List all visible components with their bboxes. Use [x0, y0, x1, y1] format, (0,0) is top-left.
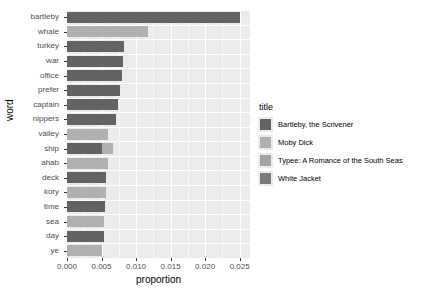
y-axis-tick	[64, 119, 67, 120]
x-axis-title: proportion	[67, 274, 250, 285]
bar-segment	[67, 129, 108, 140]
bar-row	[67, 99, 250, 110]
bar-row	[67, 231, 250, 242]
bar-row	[67, 41, 250, 52]
y-axis-tick	[64, 251, 67, 252]
bar-segment	[67, 187, 106, 198]
legend-key	[258, 117, 273, 132]
bar-segment	[67, 172, 106, 183]
legend-swatch	[260, 155, 271, 166]
x-axis-tick	[136, 258, 137, 261]
y-axis-tick	[64, 222, 67, 223]
legend-swatch	[260, 137, 271, 148]
legend-swatch	[260, 173, 271, 184]
bar-segment	[67, 26, 148, 37]
bar-segment	[67, 41, 124, 52]
y-axis-tick-label: whale	[0, 27, 59, 37]
bar-row	[67, 172, 250, 183]
legend-title: title	[259, 102, 418, 112]
bar-row	[67, 245, 250, 256]
y-axis-tick	[64, 61, 67, 62]
y-axis-tick	[64, 192, 67, 193]
x-axis-tick	[240, 258, 241, 261]
bar-segment	[67, 12, 240, 23]
legend-item: Typee: A Romance of the South Seas	[258, 152, 418, 169]
plot-panel	[67, 10, 250, 258]
bar-row	[67, 216, 250, 227]
x-axis-tick	[67, 258, 68, 261]
bar-segment	[67, 56, 123, 67]
y-axis-tick-label: war	[0, 56, 59, 66]
y-axis-tick-label: sea	[0, 217, 59, 227]
legend-swatch	[260, 119, 271, 130]
y-axis-tick-label: time	[0, 202, 59, 212]
bar-segment	[67, 245, 102, 256]
bar-row	[67, 114, 250, 125]
legend-item: Moby Dick	[258, 134, 418, 151]
y-axis-tick-label: bartleby	[0, 12, 59, 22]
bar-row	[67, 143, 250, 154]
bar-segment	[67, 70, 122, 81]
legend-key	[258, 171, 273, 186]
y-axis-tick-label: deck	[0, 173, 59, 183]
x-axis-tick-label: 0.025	[220, 262, 260, 271]
y-axis-tick-label: prefer	[0, 85, 59, 95]
bar-row	[67, 56, 250, 67]
y-axis-tick	[64, 32, 67, 33]
y-axis-tick	[64, 90, 67, 91]
x-axis-tick	[102, 258, 103, 261]
y-axis-tick-label: ye	[0, 246, 59, 256]
bar-segment	[67, 201, 105, 212]
bar-segment	[67, 143, 102, 154]
y-axis-tick	[64, 76, 67, 77]
legend-label: Moby Dick	[278, 138, 313, 147]
y-axis-tick-label: kory	[0, 187, 59, 197]
y-axis-tick	[64, 178, 67, 179]
legend-item: White Jacket	[258, 170, 418, 187]
bar-segment	[67, 216, 104, 227]
bar-segment	[67, 85, 120, 96]
legend-label: Bartleby, the Scrivener	[278, 120, 353, 129]
y-axis-tick	[64, 134, 67, 135]
y-axis-tick	[64, 163, 67, 164]
legend: title Bartleby, the ScrivenerMoby DickTy…	[258, 102, 418, 188]
y-axis-tick-label: office	[0, 71, 59, 81]
legend-item: Bartleby, the Scrivener	[258, 116, 418, 133]
y-axis-tick	[64, 149, 67, 150]
chart-figure: bartlebywhaleturkeywarofficeprefercaptai…	[0, 0, 421, 292]
y-axis-tick	[64, 105, 67, 106]
bar-segment	[67, 99, 118, 110]
bar-segment	[67, 231, 104, 242]
y-axis-tick	[64, 46, 67, 47]
bar-row	[67, 129, 250, 140]
bar-row	[67, 12, 250, 23]
y-axis-tick	[64, 207, 67, 208]
y-axis-tick-label: valley	[0, 129, 59, 139]
legend-key	[258, 153, 273, 168]
legend-label: Typee: A Romance of the South Seas	[278, 156, 403, 165]
y-axis-tick-label: ship	[0, 144, 59, 154]
bar-row	[67, 26, 250, 37]
bar-row	[67, 70, 250, 81]
y-axis-tick	[64, 17, 67, 18]
bar-segment	[67, 158, 108, 169]
y-axis-tick-label: ahab	[0, 158, 59, 168]
bar-row	[67, 158, 250, 169]
bar-row	[67, 85, 250, 96]
bar-segment	[102, 143, 113, 154]
legend-items: Bartleby, the ScrivenerMoby DickTypee: A…	[258, 116, 418, 187]
y-axis-tick	[64, 236, 67, 237]
bar-segment	[67, 114, 116, 125]
x-axis-tick	[171, 258, 172, 261]
y-axis-tick-label: day	[0, 231, 59, 241]
legend-label: White Jacket	[278, 174, 321, 183]
bar-row	[67, 201, 250, 212]
bar-row	[67, 187, 250, 198]
legend-key	[258, 135, 273, 150]
x-axis-tick	[205, 258, 206, 261]
y-axis-tick-label: turkey	[0, 41, 59, 51]
y-axis-title: word	[4, 99, 15, 121]
